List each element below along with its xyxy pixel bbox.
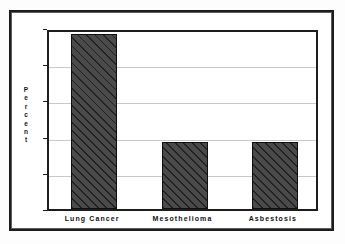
y-axis-title-letter: r [20,103,32,111]
y-axis-title-letter: t [20,136,32,144]
y-axis-title-letter: c [20,111,32,119]
bar [71,34,117,209]
y-axis-title-letter: n [20,128,32,136]
y-axis-title-letter: e [20,94,32,102]
y-axis-title: Percent [20,86,32,145]
bar [162,142,208,209]
plot-area [47,30,318,211]
x-tick-label: Asbestosis [203,215,343,222]
y-axis-title-letter: P [20,86,32,94]
chart-figure: Percent 0510152025 Lung CancerMesothelio… [0,0,345,244]
y-axis-title-letter: e [20,120,32,128]
bar [252,142,298,209]
